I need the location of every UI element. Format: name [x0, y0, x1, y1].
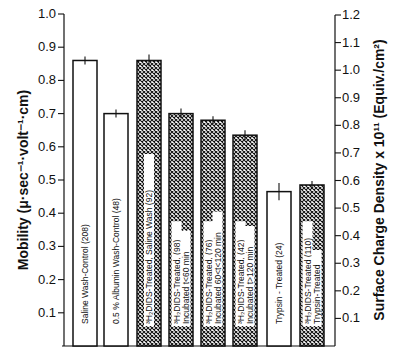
bar-label: Incubated 60<t<120 min	[213, 232, 223, 324]
y-right-tick-label: 0.2	[342, 283, 360, 298]
y-right-tick-label: 0.4	[342, 228, 360, 243]
bar-label: Incubated t<60 min	[181, 251, 191, 324]
bar: ³H₂DIDS-Treated, (76)Incubated 60<t<120 …	[201, 116, 225, 346]
y-right-tick-label: 1.2	[342, 7, 360, 22]
bars: Saline Wash-Control (208)0.5 % Albumin W…	[73, 54, 324, 346]
y-right-tick-label: 1.1	[342, 35, 360, 50]
y-tick-label: 0.3	[38, 238, 56, 253]
y-right-tick-label: 0.8	[342, 117, 360, 132]
y-tick-label: 1.0	[38, 6, 56, 21]
bar-label: ³H₂DIDS-Treated, Saline Wash (92)	[144, 190, 154, 324]
bar-label: Trypsin - Treated (24)	[274, 242, 284, 324]
y-tick-label: 0.1	[38, 305, 56, 320]
bar: 0.5 % Albumin Wash-Control (48)	[104, 110, 128, 346]
bar-label: Incubated t>120 min	[245, 246, 255, 324]
bar-label: Trypsin-Treated	[312, 264, 322, 324]
y-tick-label: 0.8	[38, 72, 56, 87]
y-right-tick-label: 0.5	[342, 200, 360, 215]
y-tick-label: 0.5	[38, 172, 56, 187]
bar-label: 0.5 % Albumin Wash-Control (48)	[111, 198, 121, 324]
bar: Trypsin - Treated (24)	[267, 183, 291, 346]
bar-label: Saline Wash-Control (208)	[80, 224, 90, 324]
y-right-tick-label: 0.7	[342, 145, 360, 160]
y-tick-label: 0.2	[38, 272, 56, 287]
bar: ³H₂DIDS-Treated, (42)Incubated t>120 min	[233, 130, 257, 346]
y-tick-label: 0.6	[38, 139, 56, 154]
y-right-tick-label: 0.1	[342, 310, 360, 325]
bar: ³H₂DIDS-Treated, Saline Wash (92)	[137, 54, 161, 346]
bar: Saline Wash-Control (208)	[73, 56, 97, 346]
y-right-tick-label: 0.9	[342, 90, 360, 105]
bar: ³H₂DIDS-Treated (110)Trypsin-Treated	[300, 181, 324, 346]
y-right-tick-label: 0.3	[342, 255, 360, 270]
y-tick-label: 0.7	[38, 106, 56, 121]
y-tick-label: 0.9	[38, 39, 56, 54]
y-tick-label: 0.4	[38, 205, 56, 220]
y-right-tick-label: 1.0	[342, 62, 360, 77]
bar-chart: 0.10.20.30.40.50.60.70.80.91.00.10.20.30…	[0, 0, 394, 354]
y-right-tick-label: 0.6	[342, 173, 360, 188]
bar: ³H₂DIDS-Treated, (98)Incubated t<60 min	[169, 109, 193, 346]
y-axis-title-right: Surface Charge Density x 10¹¹ (Equiv./cm…	[371, 39, 387, 320]
y-axis-title-left: Mobility (μ·sec⁻¹·volt⁻¹·cm)	[15, 90, 31, 270]
